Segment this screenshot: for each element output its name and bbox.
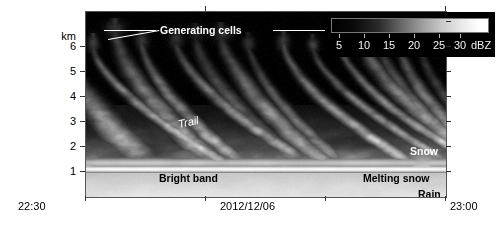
colorbar-tick-label-30: 30 xyxy=(454,39,466,51)
yaxis-tick-label-5: 5 xyxy=(36,66,76,77)
colorbar-tick-label-5: 5 xyxy=(336,39,342,51)
colorbar-gradient xyxy=(331,18,489,33)
annotation-bright-band: Bright band xyxy=(159,172,218,184)
yaxis-tick xyxy=(80,96,85,97)
xaxis-center-label: 2012/12/06 xyxy=(220,200,275,212)
xaxis-top-tick xyxy=(205,6,206,11)
yaxis-right-tick xyxy=(446,96,451,97)
colorbar: 5 10 15 20 25 30 dBZ xyxy=(325,12,495,57)
xaxis-tick xyxy=(85,196,86,201)
yaxis-tick-label-1: 1 xyxy=(36,166,76,177)
colorbar-tick xyxy=(414,34,415,38)
yaxis-tick xyxy=(80,146,85,147)
yaxis-right-tick xyxy=(446,146,451,147)
colorbar-tick xyxy=(364,34,365,38)
colorbar-tick-label-20: 20 xyxy=(408,39,420,51)
yaxis-right-tick xyxy=(446,21,451,22)
colorbar-tick-label-25: 25 xyxy=(433,39,445,51)
xaxis-tick xyxy=(325,196,326,201)
colorbar-tick xyxy=(439,34,440,38)
yaxis-right-tick xyxy=(446,71,451,72)
xaxis-start-label: 22:30 xyxy=(18,200,46,212)
xaxis-top-tick xyxy=(445,6,446,11)
yaxis-tick xyxy=(80,46,85,47)
colorbar-unit-label: dBZ xyxy=(471,39,491,51)
yaxis-right-tick xyxy=(446,46,451,47)
yaxis-tick xyxy=(80,171,85,172)
colorbar-tick xyxy=(389,34,390,38)
yaxis-tick xyxy=(80,121,85,122)
xaxis-end-label: 23:00 xyxy=(450,200,478,212)
yaxis-tick-label-3: 3 xyxy=(36,116,76,127)
annotation-rain: Rain xyxy=(418,188,441,198)
yaxis-tick-label-4: 4 xyxy=(36,91,76,102)
xaxis-tick xyxy=(445,196,446,201)
yaxis-tick-label-6: 6 xyxy=(36,41,76,52)
annotation-generating-cells: Generating cells xyxy=(160,24,242,36)
colorbar-tick-label-15: 15 xyxy=(383,39,395,51)
yaxis-right-tick xyxy=(446,171,451,172)
colorbar-tick-label-10: 10 xyxy=(358,39,370,51)
radar-figure: Generating cells Trail Bright band Snow … xyxy=(0,0,499,231)
colorbar-tick xyxy=(339,34,340,38)
yaxis-tick xyxy=(80,71,85,72)
annotation-melting-snow: Melting snow xyxy=(363,172,430,184)
yaxis-right-tick xyxy=(446,121,451,122)
colorbar-tick xyxy=(460,34,461,38)
xaxis-tick xyxy=(205,196,206,201)
yaxis-tick-label-2: 2 xyxy=(36,141,76,152)
generating-cells-leader-right xyxy=(273,30,326,31)
annotation-snow: Snow xyxy=(410,145,438,157)
